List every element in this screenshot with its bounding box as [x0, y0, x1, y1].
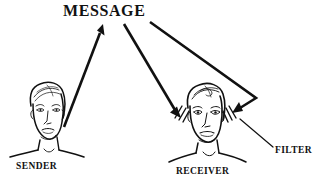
arrow-sender-to-message-shaft [64, 33, 100, 127]
sender-mouth [42, 129, 54, 131]
receiver-mouth [200, 132, 214, 134]
receiver-nose [202, 113, 210, 127]
sender-pupil-left [40, 109, 42, 111]
page-title: MESSAGE [63, 2, 145, 20]
receiver-shoulder-left [169, 153, 196, 162]
receiver-hair-outline [187, 83, 224, 120]
sender-pupil-right [56, 109, 58, 111]
arrow-message-to-receiver-left-shaft [124, 24, 175, 110]
sender-neck-right [57, 137, 59, 150]
receiver-brow-left [193, 107, 202, 109]
sender-figure [10, 82, 84, 157]
sender-shoulder-right [59, 150, 84, 157]
receiver-hair-strand-1 [192, 90, 219, 99]
filter-leader-line [240, 119, 273, 147]
sender-brow-left [36, 105, 44, 107]
receiver-lip-lower [201, 135, 213, 137]
sender-nose [44, 111, 51, 124]
sender-label: SENDER [16, 161, 57, 171]
arrow-message-to-receiver-right-head [232, 102, 243, 113]
filter-label: FILTER [275, 145, 312, 155]
sender-brow-right [52, 105, 60, 107]
receiver-pupil-left [197, 111, 199, 113]
diagram-graphics [0, 0, 322, 186]
receiver-collar [203, 152, 215, 156]
receiver-neck-left [196, 143, 198, 153]
receiver-neck-right [217, 140, 219, 153]
receiver-pupil-right [214, 111, 216, 113]
sender-neck-left [38, 140, 40, 150]
receiver-figure [169, 83, 246, 162]
sender-collar [44, 149, 54, 152]
diagram-canvas: MESSAGE SENDER RECEIVER FILTER [0, 0, 322, 186]
receiver-shoulder-right [219, 153, 246, 162]
sender-lip-lower [43, 132, 53, 134]
sender-face-outline [33, 94, 63, 139]
sender-shoulder-left [10, 150, 38, 157]
receiver-label: RECEIVER [176, 166, 229, 176]
receiver-brow-right [211, 107, 220, 109]
sender-hair-strand-2 [35, 92, 60, 101]
